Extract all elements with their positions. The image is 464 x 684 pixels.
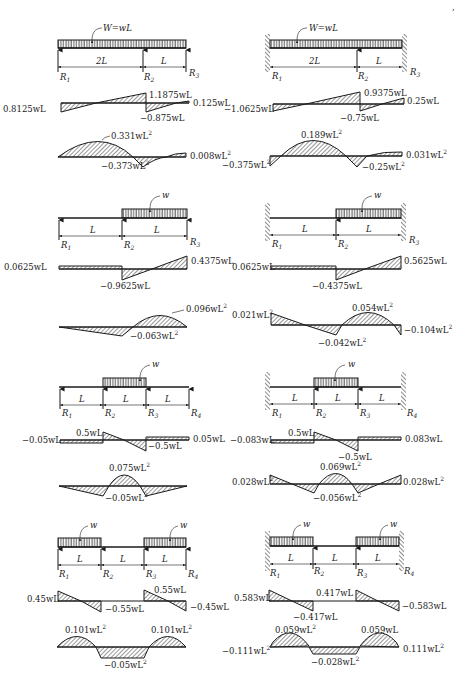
beam-diagram: w L L R1 R2 R3 (265, 190, 419, 250)
moment-value: 0.054wL2 (352, 301, 393, 313)
span-label: L (365, 224, 372, 234)
beam-diagram: w L L L R1 R2 R3 R4 (265, 359, 417, 419)
load-label: W=wL (309, 23, 338, 33)
shear-value: 0.05wL (193, 434, 225, 444)
reaction-label-r3: R3 (188, 68, 199, 79)
span-label: L (378, 393, 385, 403)
shear-diagram: 0.8125wL 1.1875wL −0.875wL 0.125wL (3, 90, 231, 123)
panel-three-span-end-loads: w w L L L R1 R2 R3 R4 0.45wL −0.55wL (27, 520, 229, 670)
moment-value: −0.05wL2 (104, 658, 147, 670)
reaction-label-r1: R1 (271, 408, 282, 419)
span-label: L (331, 553, 338, 563)
beam-diagram: w w L L L R1 R2 R3 R4 (265, 519, 414, 579)
shear-diagram: −0.083wL 0.5wL −0.5wL 0.083wL (230, 428, 443, 462)
moment-diagram: 0.096wL2 −0.063wL2 (59, 302, 227, 341)
span-label: L (301, 224, 308, 234)
shear-value: −0.45wL (190, 602, 229, 612)
distributed-load (336, 209, 401, 218)
span-label: L (375, 56, 382, 66)
distributed-load (58, 40, 186, 48)
beam-diagram: W=wL 2L L R1 R2 R3 (265, 23, 420, 82)
shear-value: −0.583wL (402, 601, 447, 611)
shear-diagram: 0.45wL −0.55wL 0.55wL −0.45wL (27, 585, 229, 614)
page-corner-mark: , (452, 2, 455, 12)
panel-three-span-end-loads-fixed: w w L L L R1 R2 R3 R4 0.583wL 0.417wL −0… (222, 519, 447, 667)
shear-value: 0.5wL (288, 428, 315, 438)
shear-diagram: −0.05wL 0.5wL −0.5wL 0.05wL (22, 428, 225, 451)
moment-value: −0.375wL2 (222, 158, 270, 170)
moment-diagram: 0.059wL2 0.059wL −0.111wL2 −0.028wL2 0.1… (222, 623, 444, 667)
distributed-load (270, 40, 402, 48)
fixed-support-right (402, 34, 407, 72)
shear-value: 0.0625wL (4, 262, 47, 272)
reaction-label-r2: R2 (337, 239, 348, 250)
shear-value: −0.9625wL (100, 281, 150, 291)
load-label: w (348, 359, 356, 369)
span-label: 2L (308, 56, 320, 66)
shear-value: 0.417wL (316, 588, 354, 598)
distributed-load (103, 378, 146, 387)
shear-value: −0.875wL (140, 113, 185, 123)
span-label: L (76, 554, 83, 564)
moment-value: −0.104wL2 (404, 323, 452, 335)
shear-value: 0.5wL (76, 428, 103, 438)
distributed-load-left (58, 538, 101, 547)
reaction-label-r3: R3 (409, 67, 420, 78)
moment-value: 0.101wL2 (65, 623, 106, 635)
reaction-label-r3: R3 (359, 408, 370, 419)
beam-diagram: w L L L R1 R2 R3 R4 (59, 359, 201, 419)
panel-three-span-center-load-fixed: w L L L R1 R2 R3 R4 −0.083wL 0.5wL −0.5w… (230, 359, 444, 503)
moment-value: −0.373wL2 (101, 159, 149, 171)
moment-value: 0.096wL2 (186, 302, 227, 314)
span-label: L (122, 394, 129, 404)
load-leader-arrow (92, 28, 102, 40)
moment-value: −0.063wL2 (130, 329, 178, 341)
moment-diagram: 0.075wL2 −0.05wL2 (59, 461, 187, 503)
span-label: L (78, 394, 85, 404)
reaction-label-r1: R1 (60, 240, 71, 251)
reaction-label-r2: R2 (315, 408, 326, 419)
reaction-label-r2: R2 (143, 72, 154, 83)
shear-value: 0.25wL (407, 96, 439, 106)
moment-value: 0.101wL2 (151, 623, 192, 635)
shear-value: −0.5wL (148, 441, 182, 451)
load-label: w (162, 190, 170, 200)
load-label: w (390, 519, 398, 529)
reaction-label-r3: R3 (356, 568, 367, 579)
reaction-label-r1: R1 (61, 408, 72, 419)
moment-value: −0.056wL2 (313, 491, 361, 503)
beam-diagram: w w L L L R1 R2 R3 R4 (58, 520, 198, 580)
moment-value: 0.021wL2 (232, 308, 273, 320)
reaction-label-r2: R2 (104, 408, 115, 419)
shear-value: 0.55wL (154, 585, 186, 595)
moment-diagram: 0.189wL2 −0.375wL2 −0.25wL2 0.031wL2 (222, 128, 447, 172)
span-label: L (161, 554, 168, 564)
reaction-label-r3: R3 (145, 569, 156, 580)
panel-two-span-fixed: W=wL 2L L R1 R2 R3 −1.0625wL 0.9375wL −0… (222, 23, 447, 172)
shear-value: −0.417wL (293, 612, 338, 622)
shear-diagram: 0.0625wL −0.9625wL 0.4375wL (4, 256, 234, 291)
moment-value: 0.059wL (361, 625, 399, 635)
span-label: L (153, 225, 160, 235)
shear-value: −0.55wL (105, 604, 144, 614)
load-label: w (152, 359, 160, 369)
moment-value: 0.031wL2 (406, 148, 447, 160)
panel-two-span-continuous: W=wL 2L L R1 R2 R3 0.8125wL 1.1875wL −0.… (3, 23, 231, 171)
shear-value: −0.4375wL (312, 281, 362, 291)
reaction-label-r2: R2 (357, 71, 368, 82)
moment-value: 0.111wL2 (403, 642, 444, 654)
reaction-label-r1: R1 (59, 72, 70, 83)
reaction-label-r4: R4 (190, 408, 201, 419)
span-label: L (291, 393, 298, 403)
moment-diagram: 0.021wL2 0.054wL2 −0.042wL2 −0.104wL2 (232, 301, 452, 348)
moment-value: 0.069wL2 (320, 460, 361, 472)
reaction-label-r2: R2 (102, 569, 113, 580)
shear-value: 0.0625wL (232, 262, 275, 272)
reaction-label-r1: R1 (271, 239, 282, 250)
reaction-label-r1: R1 (58, 569, 69, 580)
moment-value: −0.028wL2 (311, 655, 359, 667)
reaction-label-r4: R4 (403, 566, 414, 577)
span-label: L (164, 394, 171, 404)
shear-value: 0.5625wL (404, 256, 447, 266)
shear-value: −1.0625wL (224, 104, 274, 114)
